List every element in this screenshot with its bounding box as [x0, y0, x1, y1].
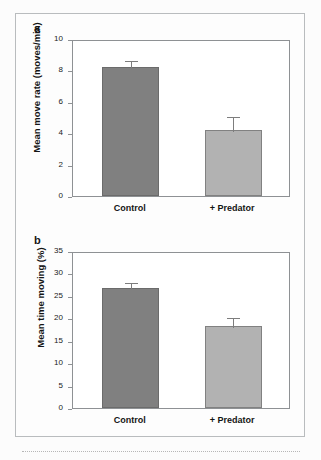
y-axis-tick-label: 5 [59, 381, 63, 390]
y-axis-tick-mark [68, 252, 72, 253]
y-axis-tick-mark [68, 297, 72, 298]
y-axis-tick-label: 20 [54, 313, 63, 322]
panel-b-y-axis-title: Mean time moving (%) [35, 218, 46, 378]
y-axis-tick-label: 25 [54, 291, 63, 300]
error-bar-cap [125, 61, 138, 62]
y-axis-tick-label: 35 [54, 246, 63, 255]
page-background: a Mean move rate (moves/min) 0246810Cont… [0, 0, 321, 460]
y-axis-tick-mark [68, 166, 72, 167]
y-axis-tick-mark [68, 40, 72, 41]
y-axis-tick-label: 4 [59, 128, 63, 137]
y-axis-tick-mark [68, 103, 72, 104]
figure-frame: a Mean move rate (moves/min) 0246810Cont… [15, 13, 305, 437]
bar-predator [205, 130, 262, 196]
panel-b: b Mean time moving (%) 05101520253035Con… [16, 226, 306, 438]
panel-b-plot-area [72, 252, 290, 409]
y-axis-tick-label: 2 [59, 160, 63, 169]
y-axis-tick-mark [68, 342, 72, 343]
y-axis-tick-label: 30 [54, 268, 63, 277]
y-axis-tick-label: 0 [59, 403, 63, 412]
y-axis-tick-label: 10 [54, 358, 63, 367]
x-axis-label: + Predator [182, 415, 282, 425]
x-axis-label: Control [80, 203, 180, 213]
error-bar-cap [125, 283, 138, 284]
error-bar-stem [233, 117, 234, 132]
bar-fill [205, 130, 262, 196]
error-bar-stem [233, 318, 234, 328]
error-bar-stem [131, 61, 132, 70]
panel-a: a Mean move rate (moves/min) 0246810Cont… [16, 14, 306, 226]
error-bar-cap [227, 117, 240, 118]
y-axis-tick-mark [68, 274, 72, 275]
bar-control [102, 67, 159, 196]
x-axis-label: + Predator [182, 203, 282, 213]
y-axis-tick-label: 10 [54, 34, 63, 43]
y-axis-tick-label: 8 [59, 65, 63, 74]
error-bar-cap [227, 318, 240, 319]
y-axis-tick-mark [68, 409, 72, 410]
y-axis-tick-label: 6 [59, 97, 63, 106]
bar-fill [205, 326, 262, 408]
y-axis-tick-mark [68, 319, 72, 320]
y-axis-tick-mark [68, 387, 72, 388]
y-axis-tick-label: 15 [54, 336, 63, 345]
panel-a-plot-area [72, 40, 290, 197]
y-axis-tick-mark [68, 71, 72, 72]
panel-a-y-axis-title: Mean move rate (moves/min) [31, 8, 42, 168]
bottom-dotted-rule [22, 451, 300, 453]
bar-fill [102, 67, 159, 196]
x-axis-label: Control [80, 415, 180, 425]
y-axis-tick-label: 0 [59, 191, 63, 200]
bar-control [102, 288, 159, 408]
bar-predator [205, 326, 262, 408]
y-axis-tick-mark [68, 364, 72, 365]
error-bar-stem [131, 283, 132, 290]
y-axis-tick-mark [68, 197, 72, 198]
y-axis-tick-mark [68, 134, 72, 135]
bar-fill [102, 288, 159, 408]
